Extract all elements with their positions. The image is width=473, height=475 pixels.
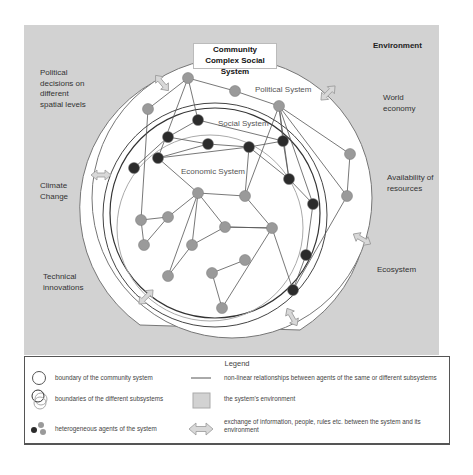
agent-node xyxy=(187,240,198,251)
community-title-box: Community Complex Social System xyxy=(193,43,277,69)
agent-node xyxy=(274,101,285,112)
agent-node xyxy=(345,149,356,160)
overlapping-circles-icon xyxy=(35,393,47,405)
factor-world-economy: Worldeconomy xyxy=(383,93,415,114)
agent-node xyxy=(220,222,231,233)
agent-node xyxy=(193,188,204,199)
agent-node xyxy=(136,215,147,226)
agent-dots-icon xyxy=(31,427,37,433)
title-line2: Complex Social System xyxy=(194,55,276,77)
agent-node xyxy=(342,191,353,202)
agent-node xyxy=(240,191,251,202)
agent-node xyxy=(129,163,140,174)
factor-technical: Technicalinnovations xyxy=(43,272,83,293)
double-arrow-icon xyxy=(189,423,213,435)
legend-text-environment: the system's environment xyxy=(224,395,295,403)
legend-text-relationships: non-linear relationships between agents … xyxy=(224,374,437,382)
legend-text-agents: heterogeneous agents of the system xyxy=(55,425,157,433)
title-line1: Community xyxy=(194,44,276,55)
agent-node xyxy=(217,303,228,314)
agent-node xyxy=(308,199,319,210)
legend: Legend boundary of the community system … xyxy=(24,356,450,445)
agent-node xyxy=(183,73,194,84)
legend-title: Legend xyxy=(25,359,449,368)
agent-node xyxy=(163,132,174,143)
legend-text-community: boundary of the community system xyxy=(55,374,153,382)
agent-node xyxy=(203,139,214,150)
agent-node xyxy=(301,250,312,261)
agent-node xyxy=(143,104,154,115)
political-system-label: Political System xyxy=(255,85,311,94)
community-boundary-circle xyxy=(92,58,372,338)
agent-node xyxy=(139,240,150,251)
agent-node xyxy=(163,212,174,223)
social-system-label: Social System xyxy=(218,119,269,128)
agent-node xyxy=(230,86,241,97)
agent-node xyxy=(284,174,295,185)
environment-square-icon xyxy=(193,393,210,408)
agent-node xyxy=(163,271,174,282)
environment-title: Environment xyxy=(373,41,422,50)
factor-ecosystem: Ecosystem xyxy=(377,265,416,276)
factor-resources: Availability ofresources xyxy=(387,173,434,194)
factor-climate: ClimateChange xyxy=(40,181,68,202)
agent-node xyxy=(207,268,218,279)
agent-node xyxy=(240,255,251,266)
agent-node xyxy=(244,142,255,153)
agent-node xyxy=(193,115,204,126)
legend-right-icons xyxy=(185,369,221,441)
agent-node xyxy=(267,223,278,234)
legend-text-subsystems: boundaries of the different subsystems xyxy=(55,395,163,403)
circle-outline-icon xyxy=(33,372,46,385)
agent-node xyxy=(288,285,299,296)
legend-text-exchange: exchange of information, people, rules e… xyxy=(224,418,439,434)
agent-node xyxy=(278,136,289,147)
economic-system-label: Economic System xyxy=(181,167,245,176)
factor-political: Politicaldecisions ondifferentspatial le… xyxy=(40,68,86,110)
agent-node xyxy=(153,153,164,164)
